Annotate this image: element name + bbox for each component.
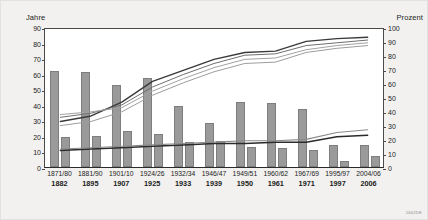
x-category-period: 1949/51 (229, 170, 260, 179)
line-series (60, 46, 367, 126)
x-category-period: 1924/26 (137, 170, 168, 179)
right-tick-mark (383, 99, 386, 100)
x-category-period: 1995/97 (322, 170, 353, 179)
right-tick-label: 100 (388, 25, 400, 32)
right-tick-label: 60 (388, 81, 396, 88)
x-category-year: 2006 (353, 179, 384, 189)
left-tick-label: 80 (33, 41, 41, 48)
x-category-year: 1907 (106, 179, 137, 189)
source-code-label: 1662DE (406, 210, 422, 215)
right-tick-mark (383, 71, 386, 72)
x-category-period: 1881/90 (75, 170, 106, 179)
x-category-period: 1901/10 (106, 170, 137, 179)
x-category-label: 1881/901895 (75, 170, 106, 188)
right-tick-label: 20 (388, 137, 396, 144)
right-axis-caption: Prozent (396, 13, 423, 22)
x-category-period: 1967/69 (291, 170, 322, 179)
left-axis-caption: Jahre (26, 13, 45, 22)
x-category-year: 1939 (199, 179, 230, 189)
left-tick-label: 50 (33, 87, 41, 94)
right-tick-label: 80 (388, 53, 396, 60)
x-category-label: 1924/261925 (137, 170, 168, 188)
x-category-year: 1895 (75, 179, 106, 189)
x-category-label: 1949/511950 (229, 170, 260, 188)
line-series (60, 135, 367, 150)
left-tick-label: 60 (33, 72, 41, 79)
right-tick-label: 30 (388, 123, 396, 130)
x-category-year: 1925 (137, 179, 168, 189)
right-tick-mark (383, 113, 386, 114)
right-tick-mark (383, 141, 386, 142)
x-category-year: 1950 (229, 179, 260, 189)
x-category-year: 1997 (322, 179, 353, 189)
left-tick-label: 30 (33, 118, 41, 125)
right-tick-label: 10 (388, 151, 396, 158)
x-category-period: 1932/34 (168, 170, 199, 179)
x-category-label: 1995/971997 (322, 170, 353, 188)
x-axis-category-labels: 1871/8018821881/9018951901/1019071924/26… (44, 170, 384, 196)
right-tick-label: 0 (388, 165, 392, 172)
right-tick-label: 50 (388, 95, 396, 102)
x-category-year: 1971 (291, 179, 322, 189)
x-category-year: 1933 (168, 179, 199, 189)
right-tick-label: 40 (388, 109, 396, 116)
line-layer (45, 29, 383, 167)
line-series (60, 43, 367, 115)
right-tick-mark (383, 57, 386, 58)
x-category-label: 1960/621961 (260, 170, 291, 188)
x-category-label: 1901/101907 (106, 170, 137, 188)
right-tick-label: 90 (388, 39, 396, 46)
x-category-label: 2004/062006 (353, 170, 384, 188)
left-tick-label: 20 (33, 134, 41, 141)
left-tick-label: 70 (33, 56, 41, 63)
chart-figure: Jahre Prozent 9080706050403020100 100908… (0, 0, 428, 220)
right-tick-mark (383, 29, 386, 30)
left-tick-label: 40 (33, 103, 41, 110)
x-category-year: 1882 (44, 179, 75, 189)
x-category-period: 1960/62 (260, 170, 291, 179)
x-category-year: 1961 (260, 179, 291, 189)
left-tick-label: 0 (37, 165, 41, 172)
x-category-period: 2004/06 (353, 170, 384, 179)
right-tick-label: 70 (388, 67, 396, 74)
left-tick-label: 10 (33, 149, 41, 156)
x-category-label: 1946/471939 (199, 170, 230, 188)
right-tick-mark (383, 155, 386, 156)
right-tick-mark (383, 127, 386, 128)
x-category-label: 1871/801882 (44, 170, 75, 188)
plot-area: 9080706050403020100 10090807060504030201… (44, 28, 384, 168)
right-tick-mark (383, 43, 386, 44)
x-category-label: 1932/341933 (168, 170, 199, 188)
line-series (60, 40, 367, 117)
right-tick-mark (383, 85, 386, 86)
x-category-period: 1871/80 (44, 170, 75, 179)
x-category-period: 1946/47 (199, 170, 230, 179)
left-tick-label: 90 (33, 25, 41, 32)
x-category-label: 1967/691971 (291, 170, 322, 188)
